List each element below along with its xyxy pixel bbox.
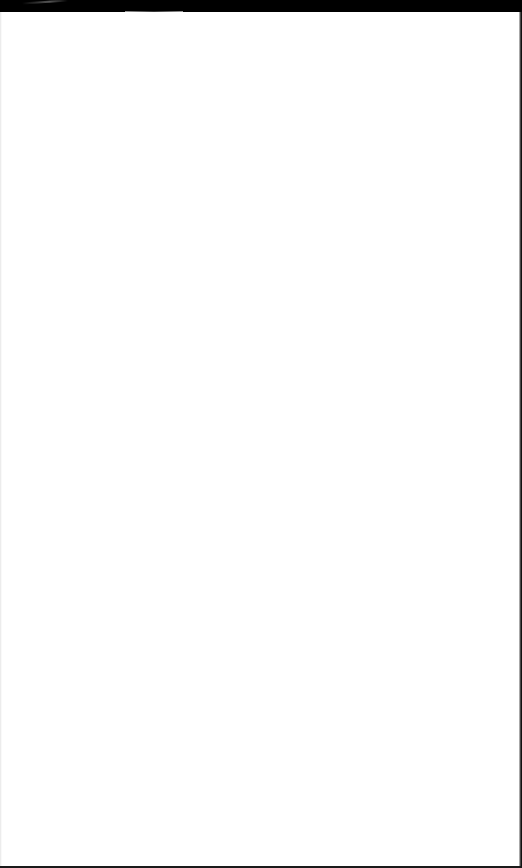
blank-page	[0, 12, 519, 866]
left-frame-edge	[0, 12, 2, 866]
top-frame-bar	[0, 0, 522, 12]
scan-artifact	[22, 0, 68, 5]
